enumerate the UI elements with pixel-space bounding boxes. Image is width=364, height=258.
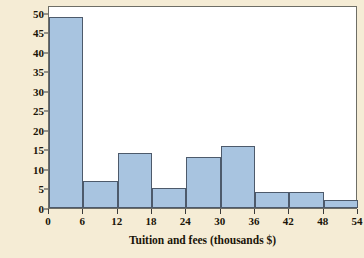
x-axis-tick-mark <box>323 209 324 214</box>
x-axis-tick-mark <box>185 209 186 214</box>
y-axis-tick-label: 15 <box>22 145 44 156</box>
y-axis-tick-label: 25 <box>22 106 44 117</box>
x-axis-tick-label: 6 <box>80 216 86 227</box>
histogram-bar <box>49 17 83 208</box>
x-axis-tick-label: 0 <box>45 216 51 227</box>
x-axis-title: Tuition and fees (thousands $) <box>48 234 357 246</box>
bar-series <box>49 7 356 208</box>
x-axis-tick-label: 36 <box>249 216 260 227</box>
y-axis-tick-label: 30 <box>22 86 44 97</box>
x-axis-tick-label: 18 <box>146 216 157 227</box>
x-axis-tick-mark <box>220 209 221 214</box>
y-axis-tick-label: 10 <box>22 164 44 175</box>
plot-area <box>48 6 357 209</box>
y-axis-tick-label: 0 <box>22 204 44 215</box>
x-axis-tick-label: 24 <box>180 216 191 227</box>
histogram-bar <box>255 192 289 208</box>
y-axis-tick-label: 45 <box>22 28 44 39</box>
y-axis-tick-label: 20 <box>22 125 44 136</box>
x-axis-tick-mark <box>48 209 49 214</box>
histogram-bar <box>152 188 186 208</box>
y-axis-title: Number of Illinois colleges <box>0 0 14 32</box>
x-axis-tick-label: 30 <box>214 216 225 227</box>
histogram-bar <box>83 181 117 208</box>
y-axis-tick-labels: 05101520253035404550 <box>20 0 44 258</box>
x-axis-tick-mark <box>357 209 358 214</box>
x-axis-tick-mark <box>254 209 255 214</box>
y-axis-tick-label: 40 <box>22 47 44 58</box>
y-axis-tick-label: 35 <box>22 67 44 78</box>
x-axis-tick-mark <box>151 209 152 214</box>
x-axis-tick-label: 48 <box>317 216 328 227</box>
x-axis-tick-mark <box>288 209 289 214</box>
histogram-bar <box>186 157 220 208</box>
histogram-bar <box>289 192 323 208</box>
histogram-bar <box>221 146 255 208</box>
x-axis-tick-mark <box>82 209 83 214</box>
histogram-bar <box>324 200 358 208</box>
histogram-bar <box>118 153 152 208</box>
x-axis-tick-label: 42 <box>283 216 294 227</box>
histogram-figure: Number of Illinois colleges 051015202530… <box>0 0 364 258</box>
x-axis-tick-mark <box>117 209 118 214</box>
x-axis-tick-label: 54 <box>352 216 363 227</box>
x-axis-tick-label: 12 <box>111 216 122 227</box>
y-axis-tick-label: 5 <box>22 184 44 195</box>
y-axis-tick-label: 50 <box>22 8 44 19</box>
